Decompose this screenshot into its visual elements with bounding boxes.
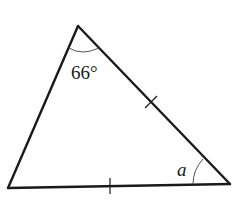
side-right: [78, 26, 230, 184]
side-left: [8, 26, 78, 188]
angle-label-66: 66°: [71, 62, 98, 83]
angle-arc-top: [69, 48, 99, 52]
isosceles-triangle-diagram: 66° a: [0, 0, 247, 206]
side-bottom: [8, 184, 230, 188]
angle-label-a: a: [177, 159, 187, 180]
angle-arc-bottom-right: [193, 159, 203, 184]
